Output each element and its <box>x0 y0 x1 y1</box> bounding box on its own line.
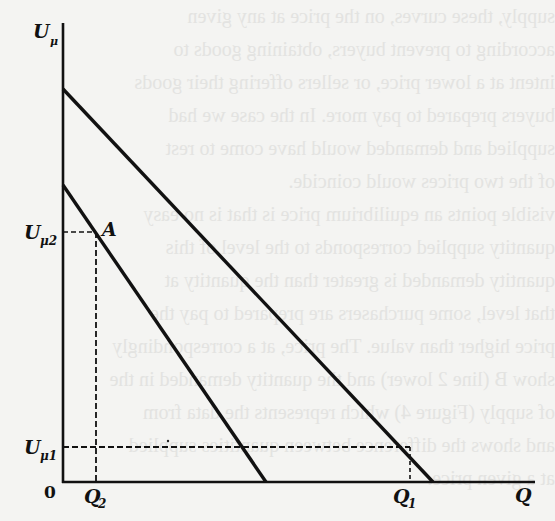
svg-text:1: 1 <box>408 497 416 511</box>
svg-text:μ2: μ2 <box>40 234 57 248</box>
print-speck <box>167 440 169 442</box>
diagram-canvas: U μ U μ2 A U μ1 0 Q 2 Q 1 Q <box>0 0 555 521</box>
x-axis-label: Q <box>515 484 532 506</box>
u-mu2-label: U μ2 <box>24 221 57 248</box>
origin-label: 0 <box>44 482 56 502</box>
svg-text:μ: μ <box>50 35 58 48</box>
lower-curve <box>63 185 266 482</box>
svg-text:U: U <box>33 20 51 42</box>
svg-text:2: 2 <box>97 497 106 511</box>
q2-label: Q 2 <box>84 485 106 511</box>
svg-text:μ1: μ1 <box>40 449 57 463</box>
q1-label: Q 1 <box>393 485 416 511</box>
upper-curve <box>63 89 433 482</box>
point-a-label: A <box>100 218 117 240</box>
u-mu1-label: U μ1 <box>24 436 57 463</box>
y-axis-label: U μ <box>33 20 58 48</box>
